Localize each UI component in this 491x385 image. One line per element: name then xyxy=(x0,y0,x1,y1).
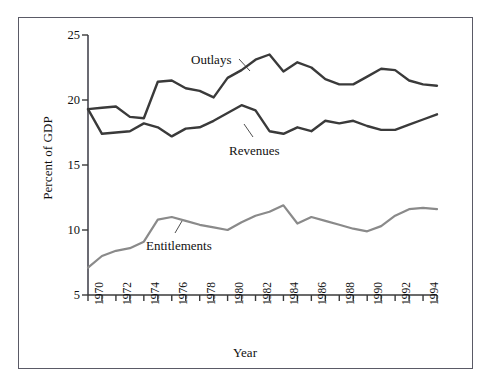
xtick-label-1984: 1984 xyxy=(288,282,300,305)
xtick-label-1988: 1988 xyxy=(344,282,356,305)
xtick-label-1994: 1994 xyxy=(428,282,440,305)
xtick-label-1986: 1986 xyxy=(316,282,328,305)
xtick-label-1976: 1976 xyxy=(177,282,189,305)
leader-line-1 xyxy=(244,124,253,137)
series-label-entitlements: Entitlements xyxy=(146,238,212,254)
ytick-label-10: 10 xyxy=(56,223,80,238)
leader-line-2 xyxy=(175,221,182,233)
plot-area xyxy=(0,0,491,385)
x-axis-title: Year xyxy=(180,345,310,361)
series-line-entitlements xyxy=(88,205,437,267)
ytick-label-5: 5 xyxy=(56,288,80,303)
ytick-label-25: 25 xyxy=(56,28,80,43)
series-line-revenues xyxy=(88,105,437,136)
xtick-label-1990: 1990 xyxy=(372,282,384,305)
xtick-label-1982: 1982 xyxy=(261,282,273,305)
xtick-label-1992: 1992 xyxy=(400,282,412,305)
xtick-label-1970: 1970 xyxy=(93,282,105,305)
xtick-label-1978: 1978 xyxy=(205,282,217,305)
chart-figure: 25 20 15 10 5 19701972197419761978198019… xyxy=(0,0,491,385)
xtick-label-1972: 1972 xyxy=(121,282,133,305)
series-label-revenues: Revenues xyxy=(229,143,280,159)
series-line-outlays xyxy=(88,55,437,119)
axes xyxy=(82,35,437,301)
xtick-label-1980: 1980 xyxy=(233,282,245,305)
xtick-label-1974: 1974 xyxy=(149,282,161,305)
ytick-label-15: 15 xyxy=(56,158,80,173)
series-lines xyxy=(88,55,437,268)
series-label-outlays: Outlays xyxy=(191,52,231,68)
ytick-label-20: 20 xyxy=(56,93,80,108)
y-axis-title: Percent of GDP xyxy=(40,88,56,228)
